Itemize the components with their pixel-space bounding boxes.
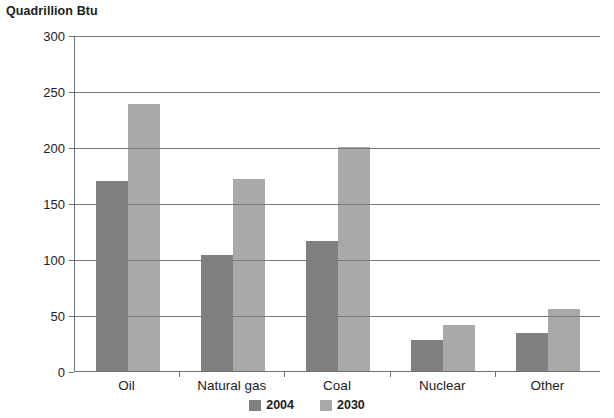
x-tick-label: Nuclear: [419, 378, 466, 393]
gridline: [75, 148, 600, 149]
bar-oil-2030: [128, 104, 160, 371]
bar-coal-2030: [338, 147, 370, 371]
y-tick-label: 150: [5, 197, 65, 212]
bar-nuclear-2004: [411, 340, 443, 371]
y-tick-label: 300: [5, 29, 65, 44]
bar-other-2030: [548, 309, 580, 371]
gridline: [75, 36, 600, 37]
legend-swatch-icon: [249, 400, 261, 411]
x-tick-label: Coal: [323, 378, 351, 393]
x-tick-label: Other: [531, 378, 565, 393]
bar-oil-2004: [96, 181, 128, 371]
bar-natural-gas-2004: [201, 255, 233, 371]
y-tick-label: 100: [5, 253, 65, 268]
x-tick-label: Oil: [118, 378, 135, 393]
y-tick-mark: [69, 372, 74, 373]
y-tick-label: 250: [5, 85, 65, 100]
gridline: [75, 204, 600, 205]
y-tick-mark: [69, 148, 74, 149]
x-tick-mark: [390, 372, 391, 377]
x-tick-mark: [179, 372, 180, 377]
x-tick-label: Natural gas: [197, 378, 266, 393]
legend-swatch-icon: [320, 400, 332, 411]
bar-nuclear-2030: [443, 325, 475, 371]
bar-other-2004: [516, 333, 548, 371]
plot-area: [74, 36, 600, 372]
legend-label: 2030: [337, 398, 365, 412]
gridline: [75, 316, 600, 317]
y-tick-label: 50: [5, 309, 65, 324]
x-tick-mark: [284, 372, 285, 377]
y-tick-mark: [69, 204, 74, 205]
y-tick-mark: [69, 92, 74, 93]
legend-item-2030: 2030: [320, 398, 365, 412]
gridline: [75, 260, 600, 261]
x-tick-mark: [495, 372, 496, 377]
chart-axis-title: Quadrillion Btu: [6, 4, 98, 18]
legend-label: 2004: [266, 398, 294, 412]
legend-item-2004: 2004: [249, 398, 294, 412]
y-tick-label: 200: [5, 141, 65, 156]
y-tick-mark: [69, 260, 74, 261]
y-tick-mark: [69, 316, 74, 317]
y-tick-label: 0: [5, 365, 65, 380]
y-tick-mark: [69, 36, 74, 37]
bar-natural-gas-2030: [233, 179, 265, 371]
gridline: [75, 92, 600, 93]
bar-chart: Quadrillion Btu 050100150200250300 OilNa…: [0, 0, 614, 418]
chart-legend: 20042030: [0, 398, 614, 412]
